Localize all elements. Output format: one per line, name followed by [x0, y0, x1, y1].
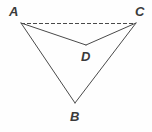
segment-AB	[21, 23, 75, 103]
vertex-label-d: D	[81, 50, 90, 63]
vertex-label-a: A	[9, 5, 18, 18]
geometry-figure: A C D B	[0, 0, 152, 132]
vertex-label-c: C	[135, 5, 144, 18]
segment-AD	[21, 23, 86, 45]
segment-DC	[86, 23, 136, 45]
vertex-label-b: B	[70, 110, 79, 123]
